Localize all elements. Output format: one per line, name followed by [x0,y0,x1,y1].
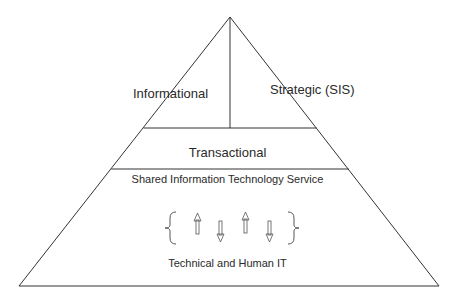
strategic-label: Strategic (SIS) [270,82,355,97]
arrow-down-icon [266,221,273,242]
technical-human-it-label: Technical and Human IT [0,257,455,269]
shared-it-service-label: Shared Information Technology Service [0,173,455,185]
arrow-up-icon [242,212,249,233]
informational-label: Informational [133,86,208,101]
arrow-up-icon [194,213,201,234]
left-brace-icon [165,212,176,244]
arrow-down-icon [217,221,224,242]
right-brace-icon [288,212,299,244]
transactional-label: Transactional [0,145,455,160]
